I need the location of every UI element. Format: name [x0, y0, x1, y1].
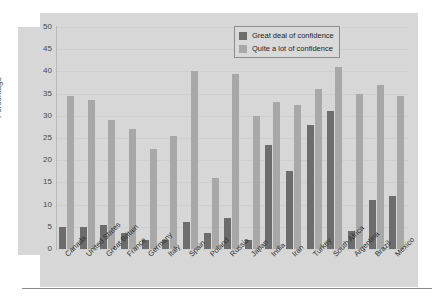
legend-item-great-deal: Great deal of confidence	[239, 30, 334, 41]
x-axis-labels: CanadaUnited StatesGreat BritainFranceGe…	[57, 252, 417, 300]
bar-group	[307, 27, 328, 249]
legend-swatch-great-deal	[239, 32, 247, 40]
y-axis-tick-label: 15	[12, 178, 52, 186]
bar	[170, 136, 177, 249]
y-axis-tick-label: 10	[12, 201, 52, 209]
y-axis-tick-label: 20	[12, 156, 52, 164]
bar	[335, 67, 342, 249]
bar	[265, 145, 272, 249]
legend-label-quite-a-lot: Quite a lot of confidence	[252, 44, 333, 53]
bar-group	[286, 27, 307, 249]
y-axis-title: Percentage	[0, 77, 3, 118]
chart-figure: Percentage 50454035302520151050 CanadaUn…	[0, 0, 438, 302]
bar-group	[245, 27, 266, 249]
legend-item-quite-a-lot: Quite a lot of confidence	[239, 43, 334, 54]
bar	[286, 171, 293, 249]
bar	[232, 74, 239, 249]
y-axis-tick-label: 35	[12, 90, 52, 98]
y-axis-tick-label: 5	[12, 223, 52, 231]
y-axis-tick-label: 30	[12, 112, 52, 120]
legend-label-great-deal: Great deal of confidence	[252, 31, 334, 40]
bar	[273, 102, 280, 249]
bar-group	[162, 27, 183, 249]
bar	[67, 96, 74, 249]
bar-group	[142, 27, 163, 249]
bar-groups	[57, 27, 408, 249]
bar-group	[348, 27, 369, 249]
bar	[315, 89, 322, 249]
legend-swatch-quite-a-lot	[239, 45, 247, 53]
y-axis-tick-label: 0	[12, 245, 52, 253]
y-axis-ticks: 50454035302520151050	[10, 27, 52, 249]
y-axis-tick-label: 40	[12, 67, 52, 75]
y-axis-tick-label: 45	[12, 45, 52, 53]
bar-group	[121, 27, 142, 249]
bar-group	[224, 27, 245, 249]
bar	[294, 105, 301, 249]
bar-group	[59, 27, 80, 249]
bar-group	[183, 27, 204, 249]
y-axis-tick-label: 50	[12, 23, 52, 31]
bar-group	[100, 27, 121, 249]
bar-group	[389, 27, 410, 249]
bar	[377, 85, 384, 249]
bar	[389, 196, 396, 249]
bar	[327, 111, 334, 249]
bar	[307, 125, 314, 249]
bar	[191, 71, 198, 249]
bar-group	[204, 27, 225, 249]
bar	[59, 227, 66, 249]
bar	[88, 100, 95, 249]
bar-group	[369, 27, 390, 249]
bar-group	[327, 27, 348, 249]
bar-group	[265, 27, 286, 249]
y-axis-tick-label: 25	[12, 134, 52, 142]
chart-legend: Great deal of confidence Quite a lot of …	[234, 26, 340, 58]
bar	[150, 149, 157, 249]
bar	[183, 222, 190, 249]
bar	[212, 178, 219, 249]
panel-notch-bottom	[18, 255, 40, 287]
bar	[253, 116, 260, 249]
bar	[397, 96, 404, 249]
bar-group	[80, 27, 101, 249]
